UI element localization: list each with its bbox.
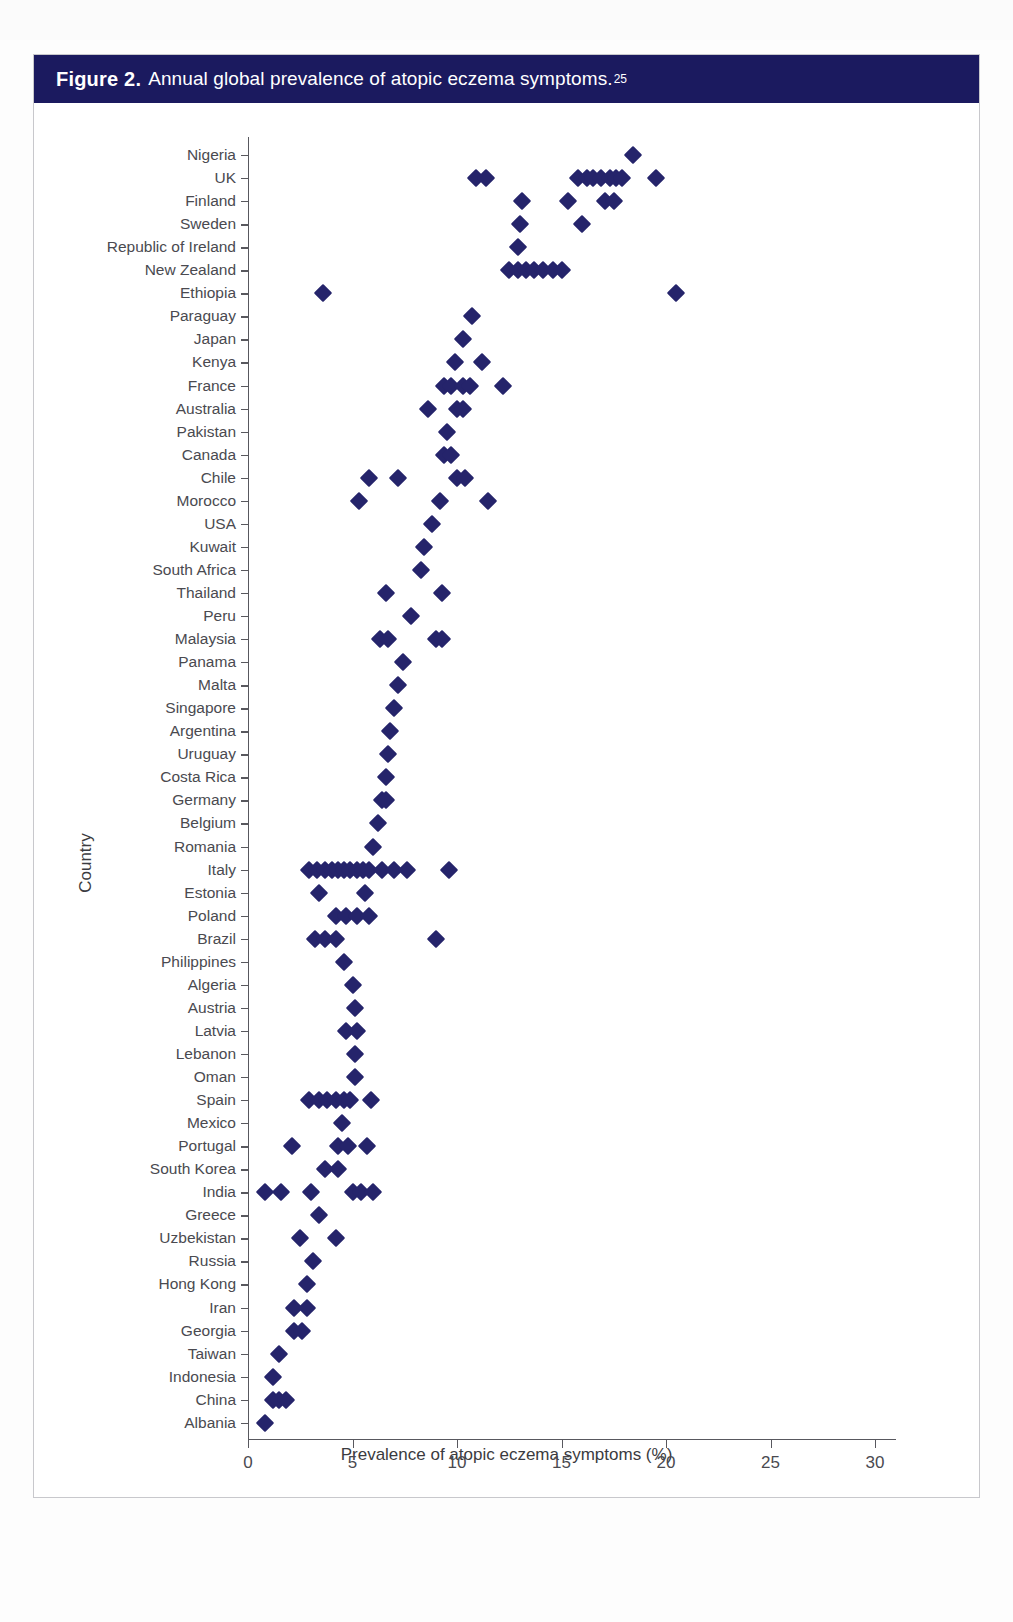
data-point-marker (646, 169, 664, 187)
data-point-marker (462, 307, 480, 325)
y-axis-category-label: Austria (188, 999, 236, 1017)
y-axis-category-label: Hong Kong (158, 1275, 236, 1293)
data-point-marker (333, 1114, 351, 1132)
y-axis-tick (241, 1031, 248, 1032)
y-axis-tick (241, 1400, 248, 1401)
data-point-marker (291, 1229, 309, 1247)
data-point-marker (389, 676, 407, 694)
data-point-marker (379, 745, 397, 763)
y-axis-tick (241, 1054, 248, 1055)
data-point-marker (389, 468, 407, 486)
data-point-marker (510, 215, 528, 233)
y-axis-category-label: Panama (178, 653, 236, 671)
figure-header: Figure 2. Annual global prevalence of at… (34, 55, 979, 103)
y-axis-category-label: Kuwait (189, 538, 236, 556)
y-axis-category-label: Greece (185, 1206, 236, 1224)
data-point-marker (350, 492, 368, 510)
y-axis-category-label: Ethiopia (180, 284, 236, 302)
figure-container: Figure 2. Annual global prevalence of at… (33, 54, 980, 1498)
y-axis-tick (241, 1146, 248, 1147)
data-point-marker (264, 1367, 282, 1385)
x-axis-tick (666, 1440, 667, 1448)
y-axis-category-label: Romania (174, 838, 236, 856)
data-point-marker (297, 1275, 315, 1293)
y-axis-category-label: Costa Rica (160, 768, 236, 786)
x-axis-tick (248, 1440, 249, 1448)
y-axis-category-label: Portugal (178, 1137, 236, 1155)
y-axis-category-label: USA (204, 515, 236, 533)
y-axis-category-label: Mexico (187, 1114, 236, 1132)
data-point-marker (439, 860, 457, 878)
y-axis-tick (241, 1284, 248, 1285)
data-point-marker (364, 1183, 382, 1201)
x-axis-tick-label: 25 (761, 1453, 780, 1473)
y-axis-tick (241, 593, 248, 594)
x-axis-line (248, 1439, 896, 1440)
data-point-marker (437, 422, 455, 440)
y-axis-category-label: Sweden (180, 215, 236, 233)
data-point-marker (270, 1344, 288, 1362)
y-axis-tick (241, 432, 248, 433)
data-point-marker (427, 929, 445, 947)
data-point-marker (362, 1091, 380, 1109)
y-axis-category-label: Chile (201, 469, 236, 487)
y-axis-tick (241, 708, 248, 709)
data-point-marker (667, 284, 685, 302)
data-point-marker (327, 929, 345, 947)
data-point-marker (477, 169, 495, 187)
y-axis-category-label: Germany (172, 791, 236, 809)
y-axis-category-label: Indonesia (169, 1368, 236, 1386)
y-axis-tick (241, 616, 248, 617)
y-axis-tick (241, 1308, 248, 1309)
y-axis-category-label: Russia (189, 1252, 236, 1270)
data-point-marker (377, 584, 395, 602)
y-axis-tick (241, 316, 248, 317)
y-axis-tick (241, 962, 248, 963)
y-axis-category-label: Taiwan (188, 1345, 236, 1363)
data-point-marker (433, 584, 451, 602)
y-axis-tick (241, 339, 248, 340)
data-point-marker (473, 353, 491, 371)
y-axis-tick (241, 893, 248, 894)
figure-number: Figure 2. (56, 68, 141, 91)
data-point-marker (343, 976, 361, 994)
data-point-marker (419, 399, 437, 417)
y-axis-category-label: Brazil (197, 930, 236, 948)
data-point-marker (573, 215, 591, 233)
y-axis-category-label: Estonia (184, 884, 236, 902)
figure-caption: Annual global prevalence of atopic eczem… (148, 68, 613, 90)
y-axis-category-label: Philippines (161, 953, 236, 971)
y-axis-tick (241, 478, 248, 479)
y-axis-category-label: Paraguay (170, 307, 236, 325)
y-axis-tick (241, 1100, 248, 1101)
y-axis-tick (241, 247, 248, 248)
x-axis-tick (875, 1440, 876, 1448)
y-axis-category-label: Peru (203, 607, 236, 625)
y-axis-tick (241, 293, 248, 294)
data-point-marker (412, 561, 430, 579)
y-axis-category-label: UK (214, 169, 236, 187)
x-axis-tick-label: 30 (866, 1453, 885, 1473)
y-axis-tick (241, 823, 248, 824)
data-point-marker (360, 468, 378, 486)
data-point-marker (364, 837, 382, 855)
y-axis-tick (241, 155, 248, 156)
y-axis-category-label: Republic of Ireland (107, 238, 236, 256)
data-point-marker (454, 330, 472, 348)
data-point-marker (347, 1022, 365, 1040)
data-point-marker (623, 146, 641, 164)
y-axis-tick (241, 270, 248, 271)
data-point-marker (414, 538, 432, 556)
y-axis-category-label: Malta (198, 676, 236, 694)
x-axis-tick-label: 0 (243, 1453, 252, 1473)
data-point-marker (513, 192, 531, 210)
y-axis-tick (241, 201, 248, 202)
y-axis-category-label: Uzbekistan (159, 1229, 236, 1247)
y-axis-tick (241, 1261, 248, 1262)
y-axis-tick (241, 847, 248, 848)
x-axis-tick-label: 15 (552, 1453, 571, 1473)
y-axis-category-label: Finland (185, 192, 236, 210)
y-axis-category-label: Algeria (188, 976, 236, 994)
y-axis-category-label: Nigeria (187, 146, 236, 164)
figure-reference-superscript: 25 (614, 72, 627, 86)
